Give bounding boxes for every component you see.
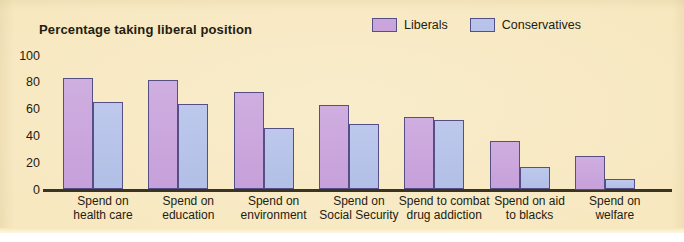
page-bottom-margin: [0, 233, 684, 242]
x-axis-label-7: Spend onwelfare: [563, 194, 667, 222]
x-axis-labels: Spend onhealth careSpend oneducationSpen…: [0, 0, 684, 242]
plot-area: 020406080100 Spend onhealth careSpend on…: [0, 0, 684, 242]
x-axis-label-7-line-1: Spend on: [563, 194, 667, 208]
x-axis-label-7-line-2: welfare: [563, 208, 667, 222]
chart-figure: Percentage taking liberal position Liber…: [0, 0, 684, 242]
